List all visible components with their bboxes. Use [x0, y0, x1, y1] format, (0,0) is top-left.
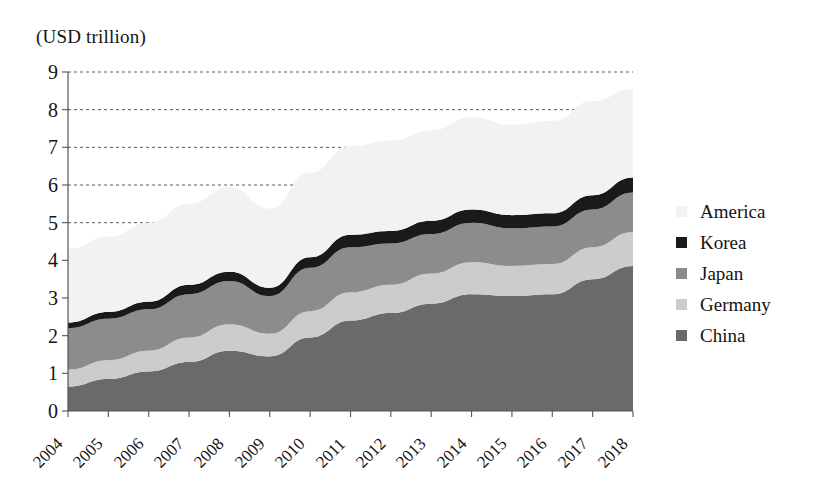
stacked-area-chart-figure: (USD trillion) 9876543210 20042005200620…: [0, 0, 820, 494]
legend-item[interactable]: Korea: [676, 227, 816, 258]
legend-item-label: Germany: [700, 295, 771, 314]
area-series-group: [68, 89, 633, 411]
legend-swatch-icon: [676, 268, 687, 279]
y-axis-unit-caption: (USD trillion): [36, 26, 146, 48]
y-tick-label: 4: [28, 250, 58, 270]
x-tick-label: 2014: [433, 435, 469, 471]
y-tick-label: 1: [28, 363, 58, 383]
legend-swatch-icon: [676, 330, 687, 341]
x-tick-label: 2008: [191, 435, 227, 471]
x-tick-label: 2016: [514, 435, 550, 471]
x-tick-label: 2004: [30, 435, 66, 471]
x-tick-label: 2007: [151, 435, 187, 471]
y-tick-label: 7: [28, 137, 58, 157]
x-tick-label: 2011: [312, 435, 348, 471]
x-tick-label: 2018: [595, 435, 631, 471]
legend-swatch-icon: [676, 206, 687, 217]
y-tick-label: 2: [28, 326, 58, 346]
legend-swatch-icon: [676, 299, 687, 310]
y-tick-label: 9: [28, 62, 58, 82]
chart-canvas: [68, 72, 633, 411]
y-tick-label: 8: [28, 100, 58, 120]
legend-item[interactable]: America: [676, 196, 816, 227]
y-tick-label: 0: [28, 401, 58, 421]
x-tick-label: 2010: [272, 435, 308, 471]
x-tick-label: 2006: [111, 435, 147, 471]
x-tick-label: 2013: [393, 435, 429, 471]
legend-swatch-icon: [676, 237, 687, 248]
y-tick-label: 6: [28, 175, 58, 195]
x-axis-tick-labels: 2004200520062007200820092010201120122013…: [68, 415, 648, 485]
y-tick-label: 5: [28, 213, 58, 233]
x-tick-label: 2015: [474, 435, 510, 471]
legend-item[interactable]: Germany: [676, 289, 816, 320]
y-axis-tick-labels: 9876543210: [18, 72, 58, 411]
x-tick-label: 2009: [232, 435, 268, 471]
x-tick-label: 2005: [70, 435, 106, 471]
legend-item-label: America: [700, 202, 765, 221]
chart-legend: AmericaKoreaJapanGermanyChina: [676, 196, 816, 351]
x-tick-label: 2012: [353, 435, 389, 471]
legend-item-label: China: [700, 326, 745, 345]
legend-item-label: Korea: [700, 233, 746, 252]
legend-item-label: Japan: [700, 264, 743, 283]
legend-item[interactable]: Japan: [676, 258, 816, 289]
legend-item[interactable]: China: [676, 320, 816, 351]
plot-area: [68, 72, 633, 411]
y-tick-label: 3: [28, 288, 58, 308]
x-tick-label: 2017: [554, 435, 590, 471]
